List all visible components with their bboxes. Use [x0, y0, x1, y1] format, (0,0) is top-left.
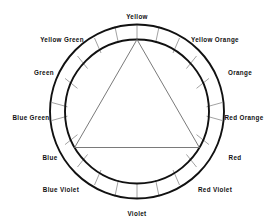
segment-divider [156, 26, 160, 43]
wheel-label-blue: Blue [42, 154, 57, 162]
segment-divider [156, 180, 160, 197]
wheel-label-orange: Orange [228, 69, 252, 77]
wheel-label-yellow-orange: Yellow Orange [191, 36, 239, 44]
segment-divider [115, 180, 119, 197]
segment-divider [186, 154, 196, 167]
primary-color-triangle [75, 40, 200, 148]
wheel-label-red-orange: Red Orange [224, 114, 263, 122]
wheel-label-blue-green: Blue Green [12, 114, 49, 122]
wheel-label-red: Red [229, 154, 242, 162]
segment-dividers [52, 25, 222, 199]
wheel-label-green: Green [34, 69, 54, 77]
color-wheel-diagram: Yellow Yellow Orange Orange Red Orange R… [0, 0, 272, 223]
segment-divider [77, 154, 87, 167]
outer-circle [50, 25, 224, 199]
wheel-label-blue-violet: Blue Violet [43, 186, 79, 194]
inner-circle [65, 40, 209, 184]
segment-divider [186, 56, 196, 69]
wheel-label-yellow-green: Yellow Green [40, 36, 84, 44]
wheel-label-violet: Violet [127, 210, 146, 218]
segment-divider [77, 56, 87, 69]
wheel-label-red-violet: Red Violet [198, 186, 232, 194]
segment-divider [115, 26, 119, 43]
wheel-label-yellow: Yellow [126, 13, 148, 21]
